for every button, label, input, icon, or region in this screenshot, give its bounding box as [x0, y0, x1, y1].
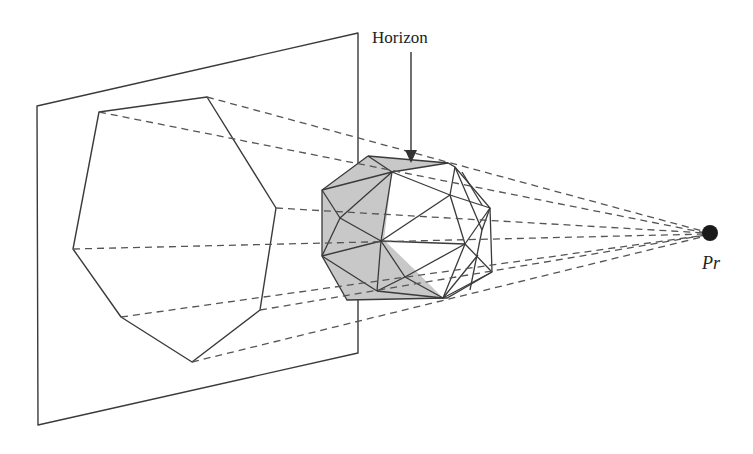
horizon-label: Horizon [372, 28, 428, 48]
silhouette-polygon [73, 97, 276, 362]
projection-point [702, 225, 718, 241]
projection-plane [37, 33, 358, 425]
horizon-arrow [405, 52, 417, 163]
projection-rays [73, 97, 706, 362]
projection-point-label: Pr [702, 253, 720, 274]
projection-diagram [0, 0, 753, 454]
